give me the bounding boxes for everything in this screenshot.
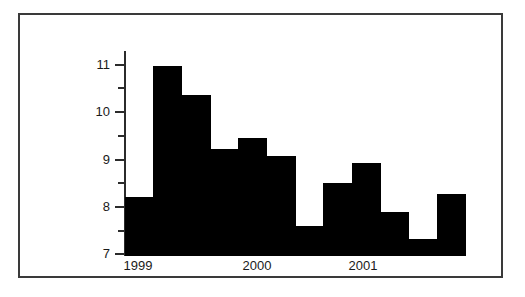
y-tick-minor-7-5 (118, 230, 124, 232)
x-tick-label-2001: 2001 (335, 259, 391, 273)
bar (380, 212, 409, 255)
bar (182, 95, 211, 255)
x-tick-label-2000: 2000 (229, 259, 285, 273)
y-tick-label-11: 11 (82, 58, 110, 71)
figure-border: 11 10 9 8 7 1999 2000 2001 (18, 13, 503, 278)
y-tick-label-7: 7 (82, 247, 110, 260)
y-tick-major-10 (115, 111, 124, 113)
bar (210, 149, 239, 255)
plot-area (125, 55, 465, 255)
bar (437, 194, 466, 255)
bar (295, 226, 324, 255)
x-axis-baseline (125, 254, 466, 256)
bar (323, 183, 352, 255)
y-tick-major-11 (115, 64, 124, 66)
y-tick-minor-8-5 (118, 182, 124, 184)
x-tick-label-1999: 1999 (110, 259, 166, 273)
y-tick-major-9 (115, 159, 124, 161)
bar (238, 138, 267, 255)
y-tick-major-7 (115, 253, 124, 255)
chart-figure: 11 10 9 8 7 1999 2000 2001 (0, 0, 525, 297)
bar (125, 197, 154, 255)
y-tick-label-8: 8 (82, 200, 110, 213)
y-tick-minor-9-5 (118, 135, 124, 137)
y-tick-major-8 (115, 206, 124, 208)
y-tick-label-9: 9 (82, 153, 110, 166)
y-tick-label-10: 10 (82, 105, 110, 118)
bar (352, 163, 381, 255)
bar-series (125, 55, 465, 255)
bar (408, 239, 437, 255)
bar (267, 156, 296, 255)
y-tick-minor-10-5 (118, 87, 124, 89)
bar (153, 66, 182, 255)
